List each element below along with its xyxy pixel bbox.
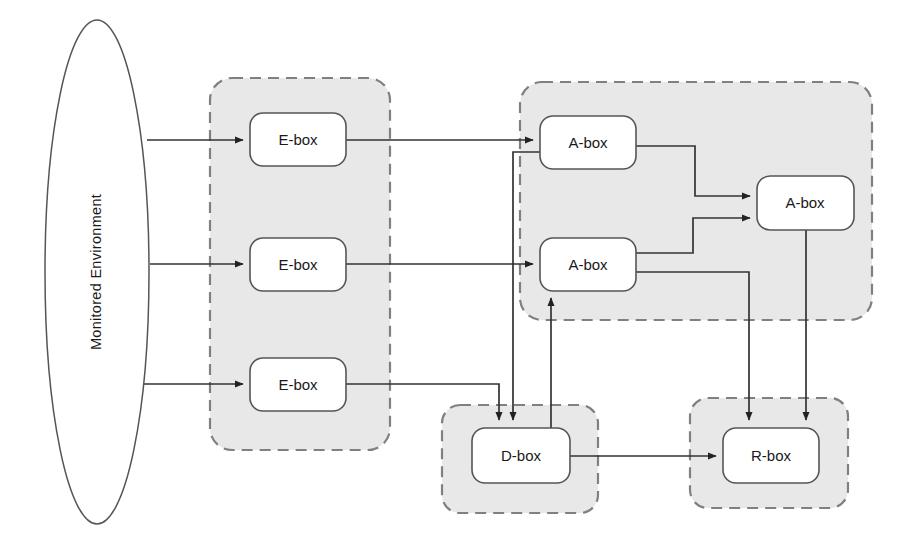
abox-3-label: A-box bbox=[785, 194, 825, 211]
node-dbox[interactable]: D-box bbox=[472, 428, 570, 483]
environment-label: Monitored Environment bbox=[88, 194, 104, 350]
dbox-label: D-box bbox=[501, 447, 542, 464]
rbox-label: R-box bbox=[751, 447, 792, 464]
node-abox-1[interactable]: A-box bbox=[540, 116, 636, 169]
ebox-2-label: E-box bbox=[278, 256, 318, 273]
node-rbox[interactable]: R-box bbox=[723, 428, 819, 483]
node-ebox-2[interactable]: E-box bbox=[250, 238, 346, 291]
node-ebox-1[interactable]: E-box bbox=[250, 113, 346, 166]
diagram-canvas: Monitored Environment E-box E-box E-box … bbox=[0, 0, 902, 544]
abox-1-label: A-box bbox=[568, 134, 608, 151]
abox-2-label: A-box bbox=[568, 256, 608, 273]
ebox-3-label: E-box bbox=[278, 376, 318, 393]
node-abox-3[interactable]: A-box bbox=[757, 176, 854, 230]
monitored-environment: Monitored Environment bbox=[45, 20, 149, 524]
architecture-diagram: Monitored Environment E-box E-box E-box … bbox=[0, 0, 902, 544]
node-ebox-3[interactable]: E-box bbox=[250, 358, 346, 411]
node-abox-2[interactable]: A-box bbox=[540, 238, 636, 291]
ebox-1-label: E-box bbox=[278, 131, 318, 148]
